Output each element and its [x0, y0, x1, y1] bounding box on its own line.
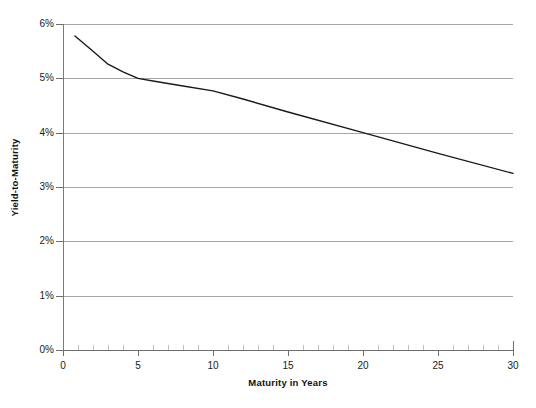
x-minor-tick-16 [303, 345, 304, 350]
gridline-5pct [63, 78, 513, 79]
x-minor-tick-11 [228, 345, 229, 350]
gridline-1pct [63, 296, 513, 297]
y-tick-label-5pct: 5% [20, 73, 54, 83]
x-minor-tick-2 [93, 345, 94, 350]
x-axis-title: Maturity in Years [63, 377, 513, 388]
y-tick-3pct [56, 187, 63, 188]
y-tick-5pct [56, 78, 63, 79]
x-major-tick-5 [138, 350, 139, 356]
x-minor-tick-14 [273, 345, 274, 350]
y-tick-label-1pct: 1% [20, 291, 54, 301]
y-tick-2pct [56, 241, 63, 242]
x-minor-tick-9 [198, 345, 199, 350]
x-minor-tick-4 [123, 345, 124, 350]
x-minor-tick-17 [318, 345, 319, 350]
x-major-tick-30 [513, 350, 514, 356]
y-tick-label-4pct: 4% [20, 128, 54, 138]
y-tick-label-6pct: 6% [20, 19, 54, 29]
x-minor-tick-21 [378, 345, 379, 350]
x-tick-label-10: 10 [193, 360, 233, 372]
y-tick-0pct [56, 350, 63, 351]
yield-curve-chart: 6% 5% 4% 3% 2% 1% 0% 0 5 10 15 20 25 30 … [0, 0, 536, 408]
x-major-tick-10 [213, 350, 214, 356]
x-minor-tick-27 [468, 345, 469, 350]
y-tick-label-group: 6% 5% 4% 3% 2% 1% 0% [14, 0, 54, 408]
x-minor-tick-28 [483, 345, 484, 350]
x-minor-tick-22 [393, 345, 394, 350]
y-axis-title: Yield-to-Maturity [9, 118, 20, 238]
y-tick-label-2pct: 2% [20, 236, 54, 246]
x-tick-label-20: 20 [343, 360, 383, 372]
x-tick-label-5: 5 [118, 360, 158, 372]
x-major-tick-0 [63, 350, 64, 356]
x-tick-label-0: 0 [43, 360, 83, 372]
y-tick-4pct [56, 133, 63, 134]
x-minor-tick-3 [108, 345, 109, 350]
x-minor-tick-29 [498, 345, 499, 350]
x-tick-label-25: 25 [418, 360, 458, 372]
x-minor-tick-23 [408, 345, 409, 350]
x-minor-tick-1 [78, 345, 79, 350]
x-minor-tick-12 [243, 345, 244, 350]
x-tick-label-30: 30 [493, 360, 533, 372]
gridline-3pct [63, 187, 513, 188]
x-major-tick-25 [438, 350, 439, 356]
x-minor-tick-19 [348, 345, 349, 350]
x-minor-tick-26 [453, 345, 454, 350]
y-tick-label-0pct: 0% [20, 345, 54, 355]
x-minor-tick-24 [423, 345, 424, 350]
y-axis-line [63, 24, 64, 351]
x-minor-tick-18 [333, 345, 334, 350]
gridline-6pct [63, 24, 513, 25]
x-tick-label-15: 15 [268, 360, 308, 372]
x-minor-tick-7 [168, 345, 169, 350]
plot-area [63, 24, 513, 350]
x-major-tick-15 [288, 350, 289, 356]
y-tick-6pct [56, 24, 63, 25]
y-tick-label-3pct: 3% [20, 182, 54, 192]
x-minor-tick-8 [183, 345, 184, 350]
gridline-4pct [63, 133, 513, 134]
x-minor-tick-13 [258, 345, 259, 350]
x-major-tick-20 [363, 350, 364, 356]
gridline-2pct [63, 241, 513, 242]
x-minor-tick-6 [153, 345, 154, 350]
y-tick-1pct [56, 296, 63, 297]
